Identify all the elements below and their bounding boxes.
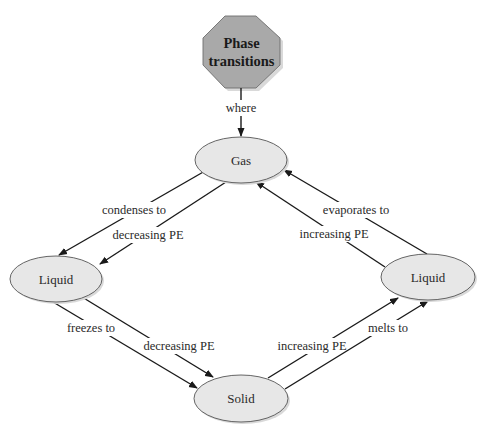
title-line-1: Phase: [223, 35, 260, 51]
edge-label-where: where: [226, 101, 257, 115]
edge-label-decreasing-pe-upper: decreasing PE: [112, 228, 184, 242]
title-line-2: transitions: [208, 53, 274, 69]
phase-transitions-concept-map: Phase transitions where condenses to dec…: [0, 0, 487, 435]
edge-evaporates-pe-arrow: [256, 182, 385, 267]
edge-freezes-pe: decreasing PE: [82, 297, 215, 377]
edge-evaporates-pe: increasing PE: [256, 182, 385, 267]
node-liquid-right-label: Liquid: [411, 270, 446, 285]
edge-label-increasing-pe-lower: increasing PE: [277, 339, 346, 353]
node-solid: Solid: [194, 375, 290, 424]
edge-label-evaporates-to: evaporates to: [323, 203, 389, 217]
edge-label-increasing-pe-upper: increasing PE: [299, 227, 368, 241]
edge-label-melts-to: melts to: [368, 321, 408, 335]
node-liquid-left: Liquid: [10, 256, 104, 304]
edge-label-freezes-to: freezes to: [67, 321, 115, 335]
node-solid-label: Solid: [227, 391, 255, 406]
node-gas: Gas: [195, 137, 289, 185]
title-node-phase-transitions: Phase transitions: [203, 16, 283, 91]
edge-label-condenses-to: condenses to: [102, 203, 166, 217]
node-liquid-right: Liquid: [381, 254, 477, 302]
node-gas-label: Gas: [231, 153, 251, 168]
edge-label-decreasing-pe-lower: decreasing PE: [143, 339, 215, 353]
edge-condenses-pe-arrow: [100, 182, 226, 264]
edge-condenses-pe: decreasing PE: [100, 182, 226, 264]
edge-melts-pe: increasing PE: [268, 298, 398, 378]
edge-where: where: [226, 88, 257, 136]
node-liquid-left-label: Liquid: [39, 272, 74, 287]
edge-freezes-pe-arrow: [82, 297, 213, 377]
